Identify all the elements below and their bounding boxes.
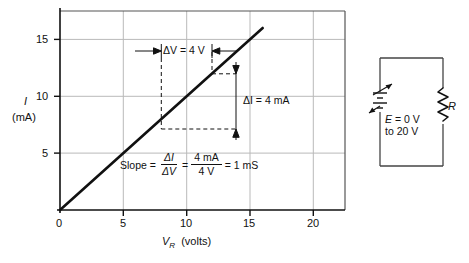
- y-axis-title-symbol: I: [24, 96, 27, 107]
- slope-equation-equals-2: =: [182, 159, 188, 171]
- source-voltage-label: E = 0 V to 20 V: [385, 113, 420, 137]
- x-tick-label-5: 5: [120, 218, 126, 229]
- x-axis-ticks: [123, 210, 313, 216]
- source-voltage-label-line2: to 20 V: [385, 125, 420, 137]
- x-axis-title: VR (volts): [162, 236, 211, 250]
- y-tick-label-5: 5: [42, 148, 48, 159]
- x-axis-title-subscript: R: [169, 241, 175, 250]
- source-voltage-label-line1: E = 0 V: [385, 113, 420, 125]
- x-tick-label-0: 0: [56, 218, 62, 229]
- delta-i-annotation: ΔI = 4 mA: [243, 95, 289, 106]
- slope-equation-word: Slope: [120, 159, 147, 171]
- delta-i-annotation-text: ΔI = 4 mA: [243, 94, 289, 106]
- x-tick-label-15: 15: [243, 218, 255, 229]
- circuit-diagram: [369, 58, 448, 166]
- y-tick-label-15: 15: [36, 34, 48, 45]
- circuit-wires: [380, 58, 443, 166]
- source-voltage-value-line1: = 0 V: [392, 113, 420, 125]
- slope-equation-equals-3: =: [225, 159, 231, 171]
- x-tick-label-20: 20: [307, 218, 319, 229]
- slope-equation-fraction-numeric: 4 mA 4 V: [191, 152, 222, 177]
- slope-equation: Slope = ΔI ΔV = 4 mA 4 V = 1 mS: [120, 152, 258, 177]
- slope-fraction-2-denominator: 4 V: [196, 165, 218, 177]
- delta-v-annotation: ΔV = 4 V: [163, 45, 205, 56]
- slope-fraction-1-denominator: ΔV: [159, 165, 179, 177]
- x-axis-title-units: (volts): [181, 235, 211, 247]
- slope-fraction-2-numerator: 4 mA: [191, 152, 222, 165]
- plot-frame: [60, 11, 345, 210]
- plot-axes: [57, 8, 345, 213]
- figure-root: 15 10 5 I (mA) 0 5 10 15 20 VR (volts) Δ…: [0, 0, 469, 263]
- y-axis-title-units: (mA): [12, 112, 36, 123]
- plot-gridlines: [60, 11, 345, 210]
- slope-equation-fraction-symbolic: ΔI ΔV: [159, 152, 179, 177]
- resistor-zigzag-icon: [438, 88, 448, 121]
- y-tick-label-10: 10: [36, 91, 48, 102]
- resistor-label: R: [448, 100, 456, 112]
- slope-equation-result: 1 mS: [234, 159, 259, 171]
- slope-fraction-1-numerator: ΔI: [161, 152, 177, 165]
- slope-equation-equals-1: =: [150, 159, 156, 171]
- x-tick-label-10: 10: [180, 218, 192, 229]
- delta-v-annotation-text: ΔV = 4 V: [163, 44, 205, 56]
- y-axis-ticks: [54, 39, 60, 153]
